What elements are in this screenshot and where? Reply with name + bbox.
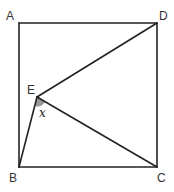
label-B: B (9, 171, 17, 185)
segment-EB (19, 97, 37, 167)
label-D: D (159, 9, 168, 23)
geometry-diagram: A D B C E x (0, 0, 174, 192)
label-C: C (157, 171, 166, 185)
label-E: E (27, 83, 35, 97)
segment-EC (37, 97, 157, 167)
angle-x-label: x (39, 106, 46, 120)
label-A: A (6, 9, 14, 23)
segment-ED (37, 23, 157, 97)
